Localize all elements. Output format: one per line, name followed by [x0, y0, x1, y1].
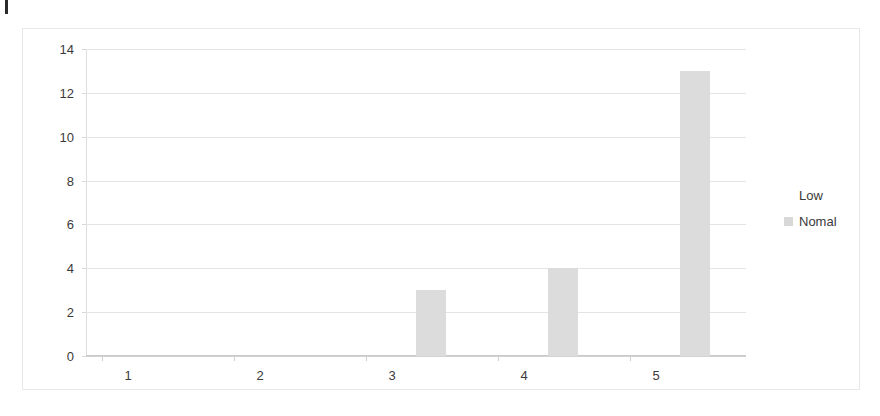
bar-group [482, 49, 614, 356]
y-tick-label: 6 [67, 217, 74, 232]
legend-label: Nomal [799, 214, 837, 229]
gridline [86, 356, 746, 357]
y-tick-label: 0 [67, 349, 74, 364]
plot-area: 02468101214 12345 [86, 49, 746, 356]
x-tick-label: 1 [125, 368, 132, 383]
y-tick-label: 8 [67, 173, 74, 188]
legend-item: Low [784, 182, 864, 208]
legend-label: Low [799, 188, 823, 203]
x-tick-mark [234, 356, 235, 361]
y-tick-label: 2 [67, 305, 74, 320]
y-tick-label: 4 [67, 261, 74, 276]
chart-frame: 02468101214 12345 [22, 28, 860, 390]
x-tick-mark [630, 356, 631, 361]
x-tick-mark [498, 356, 499, 361]
x-tick-label: 3 [389, 368, 396, 383]
bar-group [218, 49, 350, 356]
category-slot [482, 49, 614, 356]
y-tick-label: 10 [60, 129, 74, 144]
page-margin-mark [5, 0, 8, 14]
bar [416, 290, 446, 356]
legend-swatch [784, 217, 793, 226]
category-slot [350, 49, 482, 356]
category-slot [86, 49, 218, 356]
x-tick-label: 5 [653, 368, 660, 383]
y-tick-label: 12 [60, 85, 74, 100]
bar-group [86, 49, 218, 356]
legend-item: Nomal [784, 208, 864, 234]
category-slot [218, 49, 350, 356]
bar-group [614, 49, 746, 356]
y-tick-mark [82, 356, 86, 357]
x-tick-mark [102, 356, 103, 361]
category-slot [614, 49, 746, 356]
y-tick-label: 14 [60, 42, 74, 57]
x-tick-label: 2 [257, 368, 264, 383]
chart-legend: LowNomal [784, 182, 864, 234]
legend-swatch [784, 191, 793, 200]
bar [548, 268, 578, 356]
bar-group [350, 49, 482, 356]
x-tick-mark [366, 356, 367, 361]
x-tick-label: 4 [521, 368, 528, 383]
bar [680, 71, 710, 356]
